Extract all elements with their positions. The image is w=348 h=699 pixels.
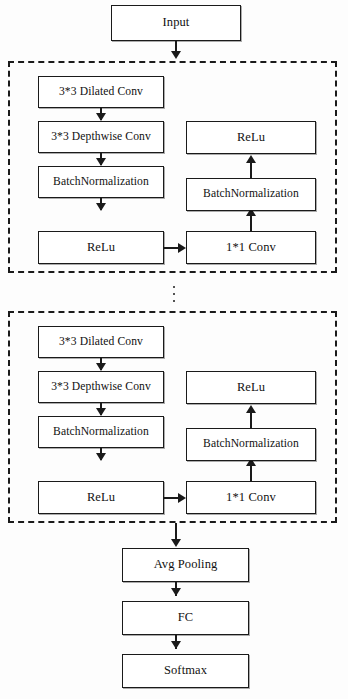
repeat-ellipsis bbox=[172, 286, 176, 302]
arrowhead-block2-to-avgpool bbox=[171, 539, 181, 547]
block2-relu-left-label: ReLu bbox=[87, 491, 115, 505]
block1-relu-left-label: ReLu bbox=[87, 241, 115, 255]
block2-node-relu-left: ReLu bbox=[38, 481, 164, 514]
block1-batchnorm-left-label: BatchNormalization bbox=[53, 176, 149, 189]
block1-node-relu-right: ReLu bbox=[186, 121, 316, 154]
block1-arrowhead-dilated-to-depthwise bbox=[96, 113, 106, 121]
block2-pointwise-conv-label: 1*1 Conv bbox=[226, 491, 276, 505]
node-input-label: Input bbox=[163, 16, 190, 30]
block2-arrowhead-dilated-to-depthwise bbox=[96, 363, 106, 371]
arrowhead-avgpool-to-fc bbox=[171, 588, 181, 596]
block1-pointwise-conv-label: 1*1 Conv bbox=[226, 241, 276, 255]
node-avg-pooling-label: Avg Pooling bbox=[154, 558, 218, 572]
ellipsis-dot bbox=[173, 286, 175, 288]
block1-node-batchnorm-right: BatchNormalization bbox=[186, 178, 316, 211]
block1-arrowhead-bn-to-relu bbox=[96, 203, 106, 211]
block1-arrowhead-bn-right-to-relu-right bbox=[246, 155, 256, 163]
block2-batchnorm-left-label: BatchNormalization bbox=[53, 426, 149, 439]
block2-arrowhead-depthwise-to-bn bbox=[96, 408, 106, 416]
block1-arrowhead-depthwise-to-bn bbox=[96, 158, 106, 166]
node-softmax: Softmax bbox=[122, 654, 249, 688]
block1-dilated-conv-label: 3*3 Dilated Conv bbox=[59, 86, 143, 99]
block1-relu-right-label: ReLu bbox=[237, 131, 265, 145]
block2-node-batchnorm-left: BatchNormalization bbox=[38, 416, 164, 448]
node-fc-label: FC bbox=[178, 611, 194, 625]
node-fc: FC bbox=[122, 601, 249, 635]
block2-node-pointwise-conv: 1*1 Conv bbox=[186, 481, 316, 514]
block2-arrowhead-relu-to-pointwise bbox=[178, 493, 186, 503]
block1-node-depthwise-conv: 3*3 Depthwise Conv bbox=[38, 121, 164, 153]
block1-node-batchnorm-left: BatchNormalization bbox=[38, 166, 164, 198]
block1-batchnorm-right-label: BatchNormalization bbox=[203, 188, 299, 201]
block2-node-batchnorm-right: BatchNormalization bbox=[186, 428, 316, 461]
block2-relu-right-label: ReLu bbox=[237, 381, 265, 395]
block1-arrowhead-relu-to-pointwise bbox=[178, 243, 186, 253]
block1-depthwise-conv-label: 3*3 Depthwise Conv bbox=[51, 131, 151, 144]
arrowhead-fc-to-softmax bbox=[171, 641, 181, 649]
block2-node-relu-right: ReLu bbox=[186, 371, 316, 404]
arrowhead-input-to-block1 bbox=[171, 51, 181, 59]
ellipsis-dot bbox=[173, 293, 175, 295]
block2-arrowhead-bn-to-relu bbox=[96, 453, 106, 461]
node-softmax-label: Softmax bbox=[164, 664, 207, 678]
node-input: Input bbox=[111, 5, 241, 41]
block2-depthwise-conv-label: 3*3 Depthwise Conv bbox=[51, 381, 151, 394]
block2-dilated-conv-label: 3*3 Dilated Conv bbox=[59, 336, 143, 349]
block1-node-dilated-conv: 3*3 Dilated Conv bbox=[38, 76, 164, 108]
block1-node-relu-left: ReLu bbox=[38, 231, 164, 264]
block2-node-dilated-conv: 3*3 Dilated Conv bbox=[38, 326, 164, 358]
network-architecture-diagram: Input 3*3 Dilated Conv 3*3 Depthwise Con… bbox=[0, 0, 348, 699]
block2-node-depthwise-conv: 3*3 Depthwise Conv bbox=[38, 371, 164, 403]
ellipsis-dot bbox=[173, 300, 175, 302]
block2-arrowhead-bn-right-to-relu-right bbox=[246, 405, 256, 413]
block2-batchnorm-right-label: BatchNormalization bbox=[203, 438, 299, 451]
block1-node-pointwise-conv: 1*1 Conv bbox=[186, 231, 316, 264]
node-avg-pooling: Avg Pooling bbox=[122, 548, 249, 582]
